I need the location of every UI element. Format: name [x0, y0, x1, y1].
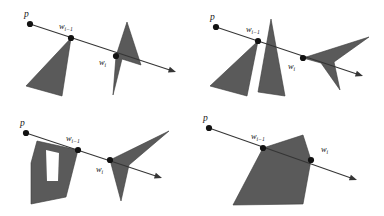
label-w-cur: wi	[99, 58, 107, 68]
label-w-prev-sub: i−1	[72, 138, 80, 144]
vertex-w-cur	[107, 157, 113, 163]
label-w-cur-sub: i	[327, 149, 329, 155]
label-w-prev: wi−1	[251, 132, 265, 142]
notched-polygon-notch	[46, 150, 59, 181]
point-p	[213, 24, 219, 30]
vertex-w-cur	[300, 55, 306, 61]
label-w-cur: wi	[96, 165, 104, 175]
panel-top-left: p wi−1 wi	[23, 8, 176, 96]
triangle-left	[210, 41, 258, 96]
label-w-prev: wi−1	[66, 134, 80, 144]
vertex-w-prev	[255, 38, 261, 44]
quadrilateral	[233, 135, 311, 205]
label-w-cur-sub: i	[105, 62, 107, 68]
dart-right	[110, 131, 169, 201]
spike-middle	[258, 19, 285, 96]
triangle-left	[26, 38, 71, 96]
arrowhead-icon	[168, 67, 176, 73]
panel-top-right: p wi−1 wi	[209, 11, 369, 96]
arrowhead-icon	[355, 71, 363, 77]
vertex-w-prev	[68, 35, 74, 41]
label-w-cur: wi	[288, 62, 296, 72]
label-w-cur-sub: i	[294, 66, 296, 72]
label-w-cur-sub: i	[102, 169, 104, 175]
label-w-prev-sub: i−1	[257, 136, 265, 142]
label-w-prev: wi−1	[246, 25, 260, 35]
vertex-w-prev	[75, 147, 81, 153]
label-p: p	[209, 11, 215, 22]
point-p	[27, 21, 33, 27]
arrowhead-icon	[154, 173, 162, 179]
panel-bottom-left: p wi−1 wi	[19, 117, 169, 204]
point-p	[23, 130, 29, 136]
label-w-prev-sub: i−1	[252, 29, 260, 35]
point-p	[206, 125, 212, 131]
vertex-w-cur	[113, 53, 119, 59]
figure-container: p wi−1 wi p wi−1 wi	[0, 0, 384, 216]
label-w-cur: wi	[321, 145, 329, 155]
label-p: p	[19, 117, 25, 128]
diagram-svg: p wi−1 wi p wi−1 wi	[0, 0, 384, 216]
panel-bottom-right: p wi−1 wi	[202, 112, 357, 205]
dart-right	[303, 37, 369, 90]
arrowhead-icon	[349, 175, 357, 181]
label-p: p	[23, 8, 29, 19]
label-p: p	[202, 112, 208, 123]
label-w-prev-sub: i−1	[65, 26, 73, 32]
label-w-prev: wi−1	[59, 22, 73, 32]
vertex-w-prev	[260, 145, 266, 151]
vertex-w-cur	[308, 157, 314, 163]
